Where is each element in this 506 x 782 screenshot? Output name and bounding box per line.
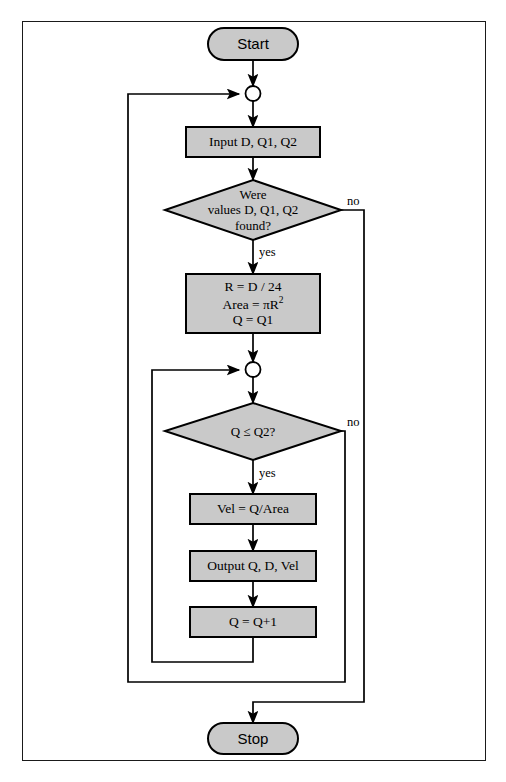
node-output-label: Output Q, D, Vel	[190, 551, 316, 581]
node-start-label: Start	[208, 28, 298, 60]
node-decision-found-label: Were values D, Q1, Q2 found?	[165, 180, 341, 240]
compute-line-2-prefix: Area =	[222, 296, 263, 311]
flowchart-canvas: Start Input D, Q1, Q2 Were values D, Q1,…	[0, 0, 506, 782]
node-compute-label: R = D / 24 Area = πR2 Q = Q1	[186, 274, 320, 333]
node-decision-loop-label: Q ≤ Q2?	[165, 403, 341, 460]
node-velocity-label: Vel = Q/Area	[190, 494, 316, 524]
compute-line-2-superscript: 2	[279, 295, 284, 305]
node-increment-label: Q = Q+1	[190, 607, 316, 637]
compute-line-2: Area = πR2	[222, 295, 283, 312]
edge-label-loop-yes: yes	[259, 466, 276, 481]
compute-line-3: Q = Q1	[233, 312, 274, 328]
decision-found-line-2: values D, Q1, Q2	[208, 202, 299, 217]
edge-label-found-yes: yes	[259, 245, 276, 260]
decision-found-line-1: Were	[239, 187, 266, 202]
edge-label-loop-no: no	[347, 415, 360, 430]
decision-found-line-3: found?	[235, 218, 271, 233]
edge-label-found-no: no	[347, 194, 360, 209]
node-stop-label: Stop	[208, 723, 298, 754]
node-input-label: Input D, Q1, Q2	[186, 127, 320, 157]
compute-line-1: R = D / 24	[224, 279, 281, 295]
compute-line-2-pi: πR	[263, 296, 279, 311]
